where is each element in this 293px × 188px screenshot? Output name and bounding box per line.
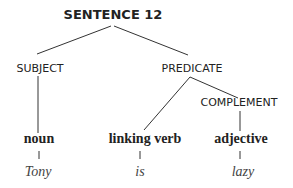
edge-predicate-linking-verb	[144, 77, 190, 130]
sentence-tree-diagram: SENTENCE 12 SUBJECT PREDICATE COMPLEMENT…	[0, 0, 293, 188]
edge-predicate-complement	[190, 77, 238, 98]
word-is: is	[135, 164, 145, 179]
pos-adjective: adjective	[214, 131, 268, 146]
word-lazy: lazy	[232, 164, 255, 179]
word-tony: Tony	[25, 164, 53, 179]
edge-sentence-predicate	[114, 26, 188, 55]
pos-noun: noun	[24, 131, 55, 146]
sentence-title: SENTENCE 12	[64, 7, 163, 22]
edge-sentence-subject	[37, 26, 111, 54]
pos-linking-verb: linking verb	[109, 131, 182, 146]
predicate-node: PREDICATE	[162, 62, 223, 75]
complement-node: COMPLEMENT	[201, 96, 278, 109]
subject-node: SUBJECT	[16, 62, 63, 75]
